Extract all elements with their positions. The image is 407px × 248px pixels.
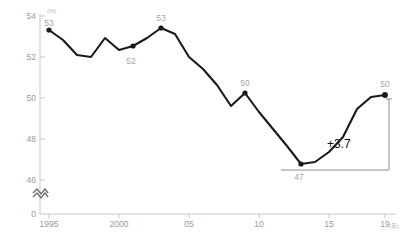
x-tick-label-10: 10 xyxy=(254,219,264,229)
data-marker-2009 xyxy=(242,90,247,95)
x-tick-label-15: 15 xyxy=(324,219,334,229)
x-tick-label-05: 05 xyxy=(184,219,194,229)
data-marker-2003 xyxy=(158,25,163,30)
y-tick-label-52: 52 xyxy=(27,52,37,62)
y-tick-label-50: 50 xyxy=(27,93,37,103)
data-marker-1995 xyxy=(46,27,51,32)
data-marker-2001 xyxy=(130,43,135,48)
point-label-2019: 50 xyxy=(380,79,390,89)
x-tick-label-1995: 1995 xyxy=(40,219,59,229)
point-label-2009: 50 xyxy=(240,78,250,88)
y-tick-label-zero: 0 xyxy=(31,209,36,219)
x-axis-unit-label: (年) xyxy=(389,222,399,230)
point-label-1995: 53 xyxy=(44,18,54,28)
point-label-2001: 52 xyxy=(126,56,136,66)
data-marker-2013 xyxy=(298,161,303,166)
point-label-2003: 53 xyxy=(156,13,166,23)
y-tick-label-54: 54 xyxy=(27,11,37,21)
point-label-2013: 47 xyxy=(294,172,304,182)
y-axis-unit-label: (%) xyxy=(47,8,56,14)
y-tick-label-48: 48 xyxy=(27,134,37,144)
y-tick-label-46: 46 xyxy=(27,175,37,185)
chart-container: 54 52 50 48 46 0 (%) 1995 2000 05 10 15 … xyxy=(0,0,407,248)
data-marker-2019 xyxy=(382,92,388,98)
x-tick-label-2000: 2000 xyxy=(110,219,129,229)
line-chart: 54 52 50 48 46 0 (%) 1995 2000 05 10 15 … xyxy=(0,0,407,248)
